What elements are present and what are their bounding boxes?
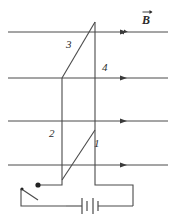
switch-lever — [23, 190, 38, 200]
physics-diagram: .fl { stroke: #4a4a4a; stroke-width: 1; … — [0, 0, 174, 217]
label-segment-1: 1 — [94, 138, 100, 149]
loop-segment-1 — [62, 130, 95, 180]
switch-contact-dot-icon — [35, 182, 40, 187]
lead-right — [95, 180, 133, 206]
field-line-2 — [8, 76, 168, 81]
label-segment-4: 4 — [102, 62, 108, 73]
field-arrow-head-icon — [120, 76, 127, 81]
circuit-leads — [38, 130, 133, 206]
label-segment-2: 2 — [49, 128, 55, 139]
field-line-3 — [8, 119, 168, 124]
field-arrow-head-icon — [120, 163, 127, 168]
lead-left — [38, 180, 62, 185]
label-segment-3: 3 — [66, 39, 72, 50]
field-arrow-head-icon — [120, 119, 127, 124]
open-switch[interactable] — [20, 182, 66, 206]
diagram-canvas: .fl { stroke: #4a4a4a; stroke-width: 1; … — [0, 0, 174, 217]
loop-segment-3 — [62, 22, 95, 78]
magnetic-field-lines — [8, 29, 168, 167]
field-line-4 — [8, 163, 168, 168]
switch-wire-to-battery — [21, 189, 66, 206]
label-magnetic-field: B — [142, 14, 150, 26]
